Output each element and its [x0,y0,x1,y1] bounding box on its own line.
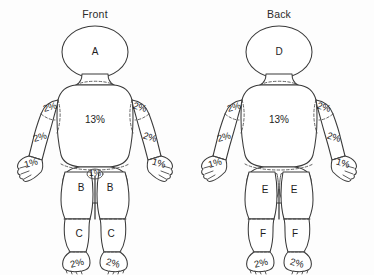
back-left-thigh-label: E [262,185,269,195]
body-figures-svg [0,0,374,275]
back-right-thigh-label: E [291,185,298,195]
front-right-lower-leg-label: C [107,229,114,239]
back-left-thigh-outline [245,172,277,219]
front-view-title: Front [82,8,108,20]
front-left-lower-leg-label: C [75,229,82,239]
back-head-label: D [275,47,282,57]
front-left-thigh-outline [61,172,93,219]
back-right-lower-leg-label: F [292,229,298,239]
front-trunk-label: 13% [85,115,105,125]
back-neck-outline [260,74,298,85]
front-right-thigh-outline [97,172,129,219]
back-figure [202,26,357,274]
front-genitalia-label: 1% [89,170,101,178]
lund-browder-chart: Front A 13% 2% 2% 2% 2% 1% 1% 1% B B C C… [0,0,374,275]
front-left-thigh-label: B [78,183,85,193]
front-figure [18,26,173,274]
front-right-thigh-label: B [107,183,114,193]
front-head-label: A [92,47,99,57]
back-torso-outline [241,85,317,167]
back-right-thigh-outline [281,172,313,219]
front-torso-outline [57,85,133,167]
back-view-title: Back [267,8,291,20]
back-left-lower-leg-label: F [260,229,266,239]
back-trunk-label: 13% [269,115,289,125]
front-neck-outline [76,74,114,85]
